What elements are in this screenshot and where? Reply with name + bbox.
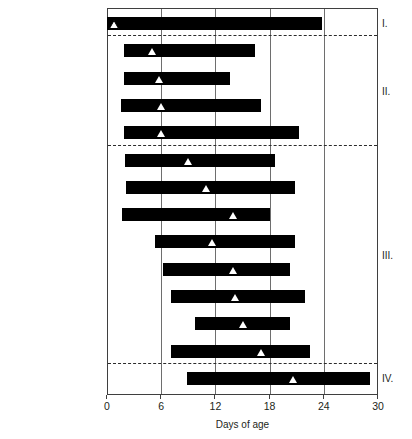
- group-label-III: III.: [382, 250, 393, 261]
- x-tick-mark-24: [323, 395, 324, 399]
- x-tick-mark-12: [214, 395, 215, 399]
- median-marker-triangle: [231, 294, 239, 301]
- bee-task-age-chart: Days of age Cleaning cellsFeeding broodC…: [0, 0, 412, 439]
- x-tick-mark-6: [160, 395, 161, 399]
- x-axis-title: Days of age: [107, 419, 378, 430]
- x-tick-label-6: 6: [141, 400, 181, 412]
- chart-row: Foraging: [0, 365, 412, 392]
- median-marker-triangle: [229, 267, 237, 274]
- x-tick-label-30: 30: [358, 400, 398, 412]
- chart-row: Storing nectar: [0, 310, 412, 337]
- task-bar: [107, 17, 322, 30]
- x-tick-mark-0: [106, 395, 107, 399]
- chart-row: Grooming nestmates: [0, 147, 412, 174]
- median-marker-triangle: [155, 76, 163, 83]
- task-bar: [163, 263, 290, 276]
- task-bar: [124, 72, 230, 85]
- task-bar: [122, 208, 269, 221]
- median-marker-triangle: [239, 321, 247, 328]
- chart-row: Capping brood: [0, 65, 412, 92]
- task-bar: [171, 345, 310, 358]
- chart-row: Guarding: [0, 338, 412, 365]
- median-marker-triangle: [289, 376, 297, 383]
- task-bar: [124, 44, 255, 57]
- chart-row: Feeding nestmates: [0, 174, 412, 201]
- x-tick-label-18: 18: [250, 400, 290, 412]
- task-bar: [126, 181, 295, 194]
- task-bar: [121, 99, 261, 112]
- chart-row: Cleaning cells: [0, 10, 412, 37]
- chart-row: Shaping comb: [0, 228, 412, 255]
- x-tick-label-0: 0: [87, 400, 127, 412]
- median-marker-triangle-hollow: [109, 20, 119, 29]
- group-label-I: I.: [382, 18, 388, 29]
- x-tick-mark-18: [269, 395, 270, 399]
- x-tick-label-24: 24: [304, 400, 344, 412]
- median-marker-triangle: [208, 239, 216, 246]
- task-bar: [155, 235, 295, 248]
- x-tick-mark-30: [377, 395, 378, 399]
- chart-row: Attending queen: [0, 119, 412, 146]
- task-bar: [187, 372, 369, 385]
- median-marker-triangle: [229, 212, 237, 219]
- group-label-IV: IV.: [382, 373, 393, 384]
- median-marker-triangle: [157, 130, 165, 137]
- chart-row: Trimming cappings*: [0, 92, 412, 119]
- task-bar: [125, 154, 275, 167]
- group-label-II: II.: [382, 86, 390, 97]
- task-bar: [124, 126, 299, 139]
- median-marker-triangle: [157, 103, 165, 110]
- chart-row: Packing pollen: [0, 283, 412, 310]
- median-marker-triangle: [148, 48, 156, 55]
- chart-row: Feeding brood: [0, 37, 412, 64]
- median-marker-triangle: [202, 185, 210, 192]
- chart-row: Receiving nectar: [0, 256, 412, 283]
- chart-row: Ventilating: [0, 201, 412, 228]
- x-tick-label-12: 12: [195, 400, 235, 412]
- median-marker-triangle: [257, 349, 265, 356]
- median-marker-triangle: [184, 158, 192, 165]
